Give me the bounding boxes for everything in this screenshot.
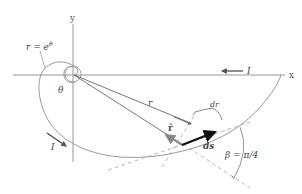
- radius-line-upper: [74, 75, 191, 124]
- curve-label-leader: [40, 51, 45, 68]
- radius-line-to-point: [74, 75, 182, 144]
- rhat-vector: [166, 135, 182, 145]
- beta-label: β = π/4: [224, 150, 258, 160]
- curve-label: r = eθ: [26, 40, 53, 52]
- dr-label: dr: [210, 100, 220, 109]
- ds-label: ds: [203, 141, 214, 151]
- dr-bracket: [193, 108, 222, 120]
- y-axis-label: y: [69, 13, 76, 23]
- current-arrow-bottom: [47, 133, 66, 146]
- current-label-top: I: [246, 66, 251, 76]
- theta-label: θ: [58, 85, 64, 95]
- spiral-diagram: x y r = eθ θ r dr β = π/4 r̂ ds: [0, 0, 302, 194]
- x-axis-label: x: [289, 70, 294, 80]
- radius-label: r: [148, 98, 153, 108]
- rhat-label: r̂: [168, 123, 173, 133]
- current-label-bottom: I: [50, 142, 55, 152]
